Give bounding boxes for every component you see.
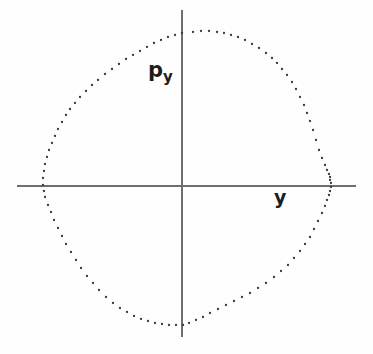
data-point <box>61 121 63 123</box>
data-point <box>225 304 227 306</box>
data-point <box>133 315 135 317</box>
data-point <box>318 149 320 151</box>
data-point <box>46 156 48 158</box>
data-point <box>57 227 59 229</box>
data-point <box>202 316 204 318</box>
data-point <box>329 190 331 192</box>
data-point <box>258 47 260 49</box>
data-point <box>304 243 306 245</box>
data-point <box>276 62 278 64</box>
data-point <box>303 104 305 106</box>
data-point <box>230 34 232 36</box>
data-point <box>75 259 77 261</box>
data-point <box>51 142 53 144</box>
data-point <box>241 296 243 298</box>
data-point <box>237 36 239 38</box>
data-point <box>61 235 63 237</box>
data-point <box>280 270 282 272</box>
data-point <box>208 30 210 32</box>
data-point <box>223 32 225 34</box>
data-point <box>321 212 323 214</box>
data-point <box>326 199 328 201</box>
data-point <box>329 179 331 181</box>
data-point <box>132 54 134 56</box>
data-point <box>324 164 326 166</box>
data-point <box>111 68 113 70</box>
data-point <box>154 322 156 324</box>
data-point <box>105 296 107 298</box>
data-point <box>265 52 267 54</box>
data-point <box>299 250 301 252</box>
data-point <box>306 112 308 114</box>
data-points-group <box>42 30 332 326</box>
data-point <box>65 114 67 116</box>
figure-canvas: py y <box>0 0 373 354</box>
data-point <box>80 267 82 269</box>
data-point <box>293 257 295 259</box>
data-point <box>330 186 332 188</box>
data-point <box>188 322 190 324</box>
horizontal-axis-label: y <box>274 188 286 207</box>
data-point <box>85 90 87 92</box>
data-point <box>181 32 183 34</box>
data-point <box>139 50 141 52</box>
data-point <box>43 190 45 192</box>
axes-group <box>17 10 356 337</box>
data-point <box>257 287 259 289</box>
data-point <box>195 319 197 321</box>
data-point <box>328 194 330 196</box>
data-point <box>328 173 330 175</box>
data-point <box>192 31 194 33</box>
data-point <box>70 251 72 253</box>
data-point <box>244 39 246 41</box>
data-point <box>330 182 332 184</box>
data-point <box>86 275 88 277</box>
data-point <box>54 135 56 137</box>
data-point <box>291 81 293 83</box>
data-point <box>98 289 100 291</box>
data-point <box>44 196 46 198</box>
data-point <box>321 157 323 159</box>
scatter-plot <box>0 0 373 354</box>
data-point <box>48 149 50 151</box>
data-point <box>167 36 169 38</box>
data-point <box>309 120 311 122</box>
data-point <box>43 170 45 172</box>
vertical-axis-label: py <box>148 60 173 85</box>
data-point <box>97 79 99 81</box>
data-point <box>273 276 275 278</box>
data-point <box>92 282 94 284</box>
data-point <box>44 163 46 165</box>
data-point <box>295 88 297 90</box>
data-point <box>175 324 177 326</box>
data-point <box>315 139 317 141</box>
data-point <box>216 31 218 33</box>
data-point <box>271 57 273 59</box>
data-point <box>42 177 44 179</box>
data-point <box>168 324 170 326</box>
data-point <box>147 320 149 322</box>
data-point <box>160 39 162 41</box>
data-point <box>146 46 148 48</box>
data-point <box>217 308 219 310</box>
data-point <box>74 102 76 104</box>
data-point <box>324 205 326 207</box>
data-point <box>65 243 67 245</box>
data-point <box>57 128 59 130</box>
data-point <box>200 30 202 32</box>
data-point <box>326 169 328 171</box>
data-point <box>119 307 121 309</box>
data-point <box>112 302 114 304</box>
data-point <box>317 220 319 222</box>
data-point <box>265 282 267 284</box>
data-point <box>233 300 235 302</box>
data-point <box>182 324 184 326</box>
data-point <box>313 228 315 230</box>
data-point <box>125 58 127 60</box>
data-point <box>42 184 44 186</box>
data-point <box>153 42 155 44</box>
data-point <box>309 236 311 238</box>
data-point <box>104 73 106 75</box>
data-point <box>287 264 289 266</box>
vertical-axis-label-subscript: y <box>163 68 173 86</box>
